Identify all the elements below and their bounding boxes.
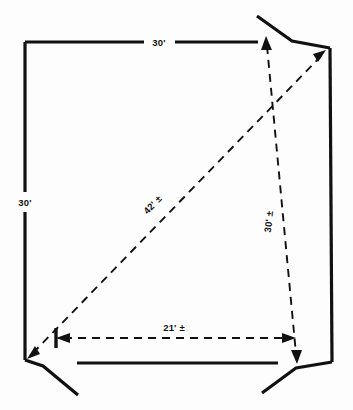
right-boundary-line [330, 48, 332, 362]
bottom-offset-dimension-label: 21' ± [163, 322, 185, 333]
right-vertical-arrow-head-top [261, 36, 272, 50]
right-vertical-measurement-line [267, 46, 296, 354]
survey-diagram-container: 30' 30' 42' ± 30' ± 21' ± [0, 0, 353, 410]
bottom-right-notch-line [262, 362, 332, 393]
diagonal-measurement-line [33, 55, 322, 353]
diagonal-dimension-label: 42' ± [141, 193, 164, 216]
right-vertical-arrow-head-bottom [291, 350, 302, 364]
right-interior-dimension-label: 30' ± [262, 210, 275, 233]
diagonal-arrow-head-top-right [313, 50, 326, 62]
left-dimension-label: 30' [18, 197, 31, 208]
survey-plan-drawing: 30' 30' 42' ± 30' ± 21' ± [0, 0, 353, 410]
top-dimension-label: 30' [152, 37, 165, 48]
bottom-left-notch-line [25, 360, 78, 395]
bottom-offset-arrow-head-left [56, 333, 70, 343]
